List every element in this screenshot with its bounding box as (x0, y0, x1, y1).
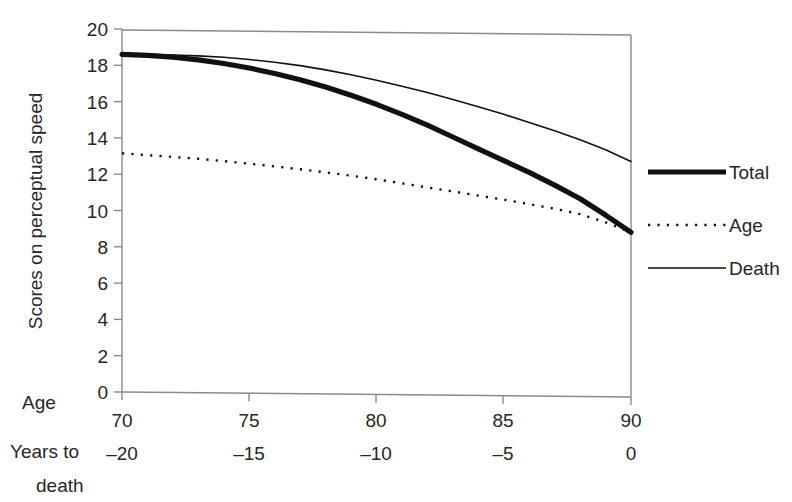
x-tick-age-70: 70 (111, 410, 132, 431)
x-tick-age-80: 80 (365, 410, 386, 431)
x-axis-caption-years-to-death-line2: death (36, 475, 84, 496)
y-tick-2: 2 (97, 346, 108, 367)
x-tick-ytd-minus10: –10 (360, 443, 392, 464)
legend-label-total: Total (729, 162, 769, 183)
x-tick-age-90: 90 (620, 410, 641, 431)
x-tick-ytd-minus15: –15 (233, 443, 265, 464)
x-tick-ytd-0: 0 (626, 443, 637, 464)
x-tick-ytd-minus5: –5 (492, 443, 513, 464)
legend-label-death: Death (729, 258, 780, 279)
y-tick-4: 4 (97, 309, 108, 330)
x-tick-ytd-minus20: –20 (106, 443, 138, 464)
y-tick-8: 8 (97, 237, 108, 258)
y-tick-0: 0 (97, 382, 108, 403)
y-tick-18: 18 (87, 55, 108, 76)
legend-label-age: Age (729, 215, 763, 236)
y-tick-16: 16 (87, 92, 108, 113)
x-axis-caption-age: Age (22, 392, 56, 413)
x-axis-caption-years-to-death-line1: Years to (10, 441, 79, 462)
y-tick-6: 6 (97, 273, 108, 294)
y-axis-title: Scores on perceptual speed (25, 93, 46, 330)
perceptual-speed-line-chart: 20 18 16 14 12 10 8 6 4 2 0 Scores on pe… (0, 0, 792, 502)
y-tick-14: 14 (87, 128, 109, 149)
x-tick-age-75: 75 (238, 410, 259, 431)
y-tick-10: 10 (87, 201, 108, 222)
chart-figure: 20 18 16 14 12 10 8 6 4 2 0 Scores on pe… (0, 0, 792, 502)
y-tick-12: 12 (87, 164, 108, 185)
x-tick-age-85: 85 (492, 410, 513, 431)
y-tick-20: 20 (87, 19, 108, 40)
